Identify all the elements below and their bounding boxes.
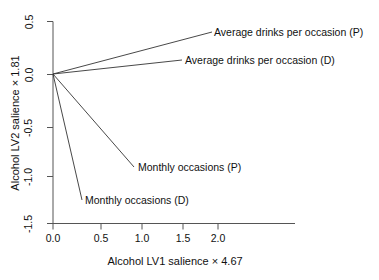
y-tick-label-4: -1.5 [22, 215, 34, 233]
biplot-figure: 0.0 0.5 1.0 1.5 2.0 0.5 0.0 -0.5 -1.0 -1… [0, 0, 379, 280]
x-tick-label-4: 2.0 [211, 232, 226, 244]
y-tick-label-1: 0.0 [23, 68, 35, 83]
series-label-average-drinks-per-occasion-d: Average drinks per occasion (D) [185, 54, 335, 66]
vector-average-drinks-per-occasion-p [53, 32, 212, 74]
x-tick-label-3: 1.5 [176, 232, 191, 244]
vector-monthly-occasions-d [53, 74, 82, 200]
series-label-average-drinks-per-occasion-p: Average drinks per occasion (P) [214, 26, 363, 38]
x-tick-label-0: 0.0 [46, 232, 61, 244]
x-axis-title: Alcohol LV1 salience × 4.67 [107, 255, 242, 267]
series-label-monthly-occasions-d: Monthly occasions (D) [85, 194, 189, 206]
vector-average-drinks-per-occasion-d [53, 60, 182, 74]
x-tick-label-2: 1.0 [135, 232, 150, 244]
y-tick-label-2: -0.5 [22, 119, 34, 137]
series-label-monthly-occasions-p: Monthly occasions (P) [138, 161, 241, 173]
y-tick-label-3: -1.0 [22, 168, 34, 186]
y-tick-label-0: 0.5 [23, 15, 35, 30]
x-tick-label-1: 0.5 [94, 232, 109, 244]
y-axis-title: Alcohol LV2 salience × 1.81 [9, 55, 21, 190]
vector-monthly-occasions-p [53, 74, 134, 167]
